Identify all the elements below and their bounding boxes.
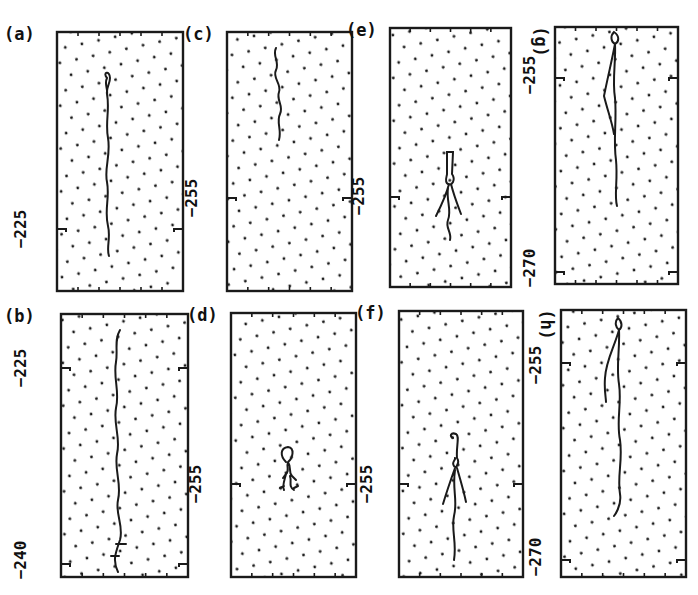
y-tick-label: −270 <box>522 249 538 288</box>
panel-frame <box>555 27 678 284</box>
panel-g <box>555 27 678 284</box>
panel-frame <box>390 28 511 287</box>
panel-e <box>390 28 511 287</box>
panel-b <box>61 314 188 577</box>
panel-label-d: (d) <box>187 307 218 324</box>
y-tick-label: −255 <box>528 346 544 385</box>
figure: (a)(b)(c)(d)(e)(f)(g)(h)−225−225−240−255… <box>0 0 698 595</box>
panel-frame <box>399 311 523 577</box>
panel-label-b: (b) <box>4 308 35 325</box>
panel-frame <box>231 313 356 577</box>
panel-c <box>227 32 352 291</box>
panel-label-e: (e) <box>346 22 377 39</box>
y-tick-label: −255 <box>351 177 367 216</box>
panel-label-c: (c) <box>183 26 214 43</box>
panel-d <box>231 313 356 577</box>
panel-a <box>57 32 183 291</box>
y-tick-label: −225 <box>13 210 29 249</box>
panel-frame <box>61 314 188 577</box>
panel-frame <box>227 32 352 291</box>
panel-frame <box>561 310 686 577</box>
y-tick-label: −240 <box>13 541 29 580</box>
panel-frame <box>57 32 183 291</box>
y-tick-label: −270 <box>528 538 544 577</box>
panel-label-h: (h) <box>538 309 555 340</box>
y-tick-label: −225 <box>13 349 29 388</box>
y-tick-label: −255 <box>522 56 538 95</box>
y-tick-label: −255 <box>184 179 200 218</box>
panel-label-f: (f) <box>355 305 386 322</box>
y-tick-label: −255 <box>359 465 375 504</box>
figure-canvas <box>0 0 698 595</box>
y-tick-label: −255 <box>188 465 204 504</box>
panel-label-g: (g) <box>532 26 549 57</box>
panel-f <box>399 311 523 577</box>
panel-h <box>561 310 686 577</box>
panel-label-a: (a) <box>4 26 35 43</box>
